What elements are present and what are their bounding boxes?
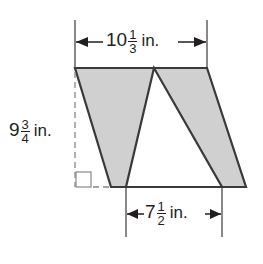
height-label: 934in. — [9, 118, 52, 145]
top-width-fraction: 13 — [128, 28, 137, 55]
right-angle-marker-icon — [76, 172, 91, 187]
top-arrowhead-right-icon — [194, 37, 206, 47]
top-width-label: 1013in. — [106, 28, 159, 55]
height-unit: in. — [34, 121, 52, 140]
top-width-denominator: 3 — [129, 42, 136, 55]
top-width-numerator: 1 — [128, 28, 137, 42]
bottom-arrowhead-left-icon — [127, 209, 138, 219]
bottom-segment-unit: in. — [170, 203, 188, 222]
bottom-segment-numerator: 1 — [157, 200, 166, 214]
height-numerator: 3 — [21, 118, 30, 132]
height-denominator: 4 — [22, 132, 29, 145]
height-fraction: 34 — [21, 118, 30, 145]
top-width-whole: 10 — [106, 29, 127, 50]
top-width-unit: in. — [141, 31, 159, 50]
bottom-segment-denominator: 2 — [158, 214, 165, 227]
bottom-segment-label: 712in. — [145, 200, 188, 227]
bottom-arrowhead-right-icon — [210, 209, 221, 219]
bottom-segment-whole: 7 — [145, 201, 156, 222]
height-whole: 9 — [9, 119, 20, 140]
bottom-segment-fraction: 12 — [157, 200, 166, 227]
top-arrowhead-left-icon — [76, 37, 88, 47]
